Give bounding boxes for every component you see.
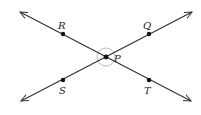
point-T xyxy=(147,78,151,82)
point-R xyxy=(61,32,65,36)
point-S xyxy=(61,78,65,82)
intersecting-lines-diagram: R Q P S T xyxy=(0,0,201,115)
label-R: R xyxy=(57,20,66,31)
diagram-svg: R Q P S T xyxy=(0,0,201,115)
label-S: S xyxy=(59,85,66,96)
label-Q: Q xyxy=(143,20,151,31)
label-T: T xyxy=(144,85,152,96)
point-Q xyxy=(147,32,151,36)
point-P xyxy=(104,55,109,60)
label-P: P xyxy=(113,53,121,64)
